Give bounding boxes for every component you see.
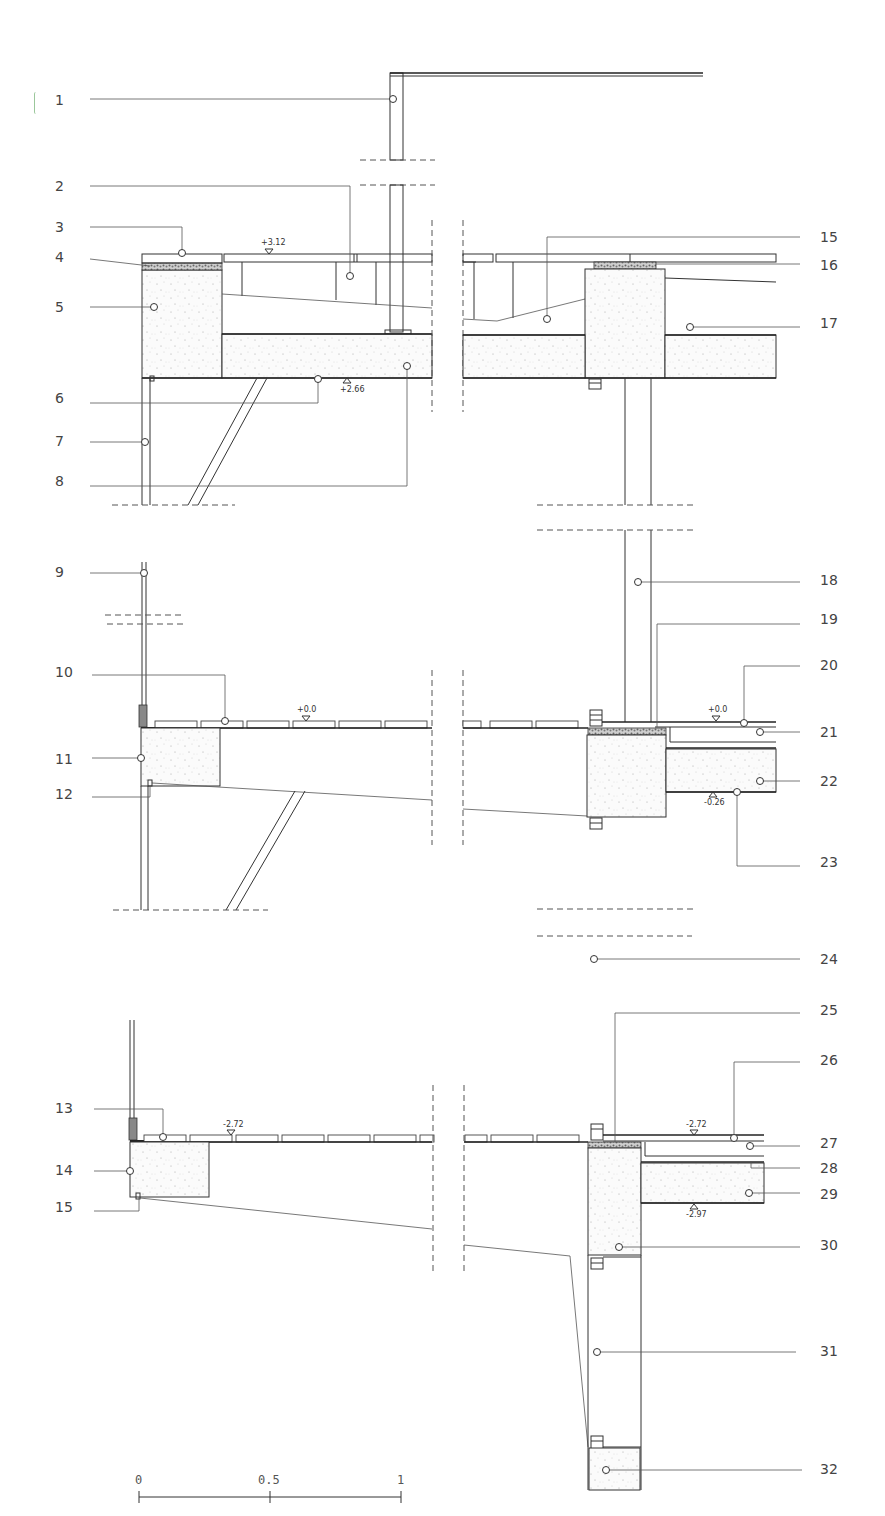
callout-22: 22 — [820, 774, 838, 788]
callout-28: 28 — [820, 1161, 838, 1175]
callout-4: 4 — [55, 250, 64, 264]
callout-18: 18 — [820, 573, 838, 587]
callout-16: 16 — [820, 258, 838, 272]
callout-9: 9 — [55, 565, 64, 579]
callout-31: 31 — [820, 1344, 838, 1358]
scale-label-1: 1 — [397, 1474, 404, 1486]
callout-12: 12 — [55, 787, 73, 801]
callout-17: 17 — [820, 316, 838, 330]
callout-7: 7 — [55, 434, 64, 448]
callout-30: 30 — [820, 1238, 838, 1252]
callout-21: 21 — [820, 725, 838, 739]
callout-8: 8 — [55, 474, 64, 488]
scan-artifact — [34, 92, 38, 114]
callout-15-right: 15 — [820, 230, 838, 244]
scale-bar — [139, 1491, 401, 1503]
callout-24: 24 — [820, 952, 838, 966]
callout-10: 10 — [55, 665, 73, 679]
callout-15-left: 15 — [55, 1200, 73, 1214]
level-label: +2.66 — [340, 386, 365, 394]
scale-label-0: 0 — [135, 1474, 142, 1486]
level-label: -2.72 — [686, 1121, 707, 1129]
callout-25: 25 — [820, 1003, 838, 1017]
callout-32: 32 — [820, 1462, 838, 1476]
callout-11: 11 — [55, 752, 73, 766]
callout-13: 13 — [55, 1101, 73, 1115]
upper-section — [112, 73, 776, 505]
basement-section — [129, 1020, 764, 1490]
ground-section — [105, 530, 776, 936]
callout-5: 5 — [55, 300, 64, 314]
callout-20: 20 — [820, 658, 838, 672]
callout-26: 26 — [820, 1053, 838, 1067]
callout-1: 1 — [55, 93, 64, 107]
level-label: +0.0 — [297, 706, 316, 714]
callout-3: 3 — [55, 220, 64, 234]
level-label: +3.12 — [261, 239, 286, 247]
scale-label-0-5: 0.5 — [258, 1474, 280, 1486]
callout-2: 2 — [55, 179, 64, 193]
callout-23: 23 — [820, 855, 838, 869]
callout-29: 29 — [820, 1187, 838, 1201]
level-label: +0.0 — [708, 706, 727, 714]
section-drawing — [0, 0, 885, 1516]
level-label: -2.97 — [686, 1211, 707, 1219]
callout-6: 6 — [55, 391, 64, 405]
callout-14: 14 — [55, 1163, 73, 1177]
level-label: -0.26 — [704, 799, 725, 807]
callout-27: 27 — [820, 1136, 838, 1150]
level-label: -2.72 — [223, 1121, 244, 1129]
callout-19: 19 — [820, 612, 838, 626]
